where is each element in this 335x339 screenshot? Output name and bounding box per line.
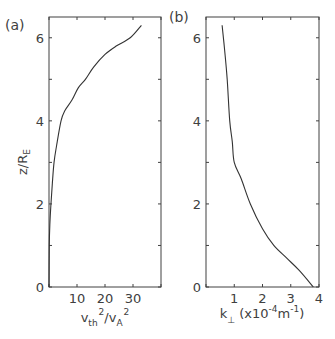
xlabel-b-sup: -4	[269, 304, 278, 314]
xtick-label: 20	[97, 291, 114, 306]
xtick-label: 1	[230, 291, 238, 306]
ytick-label: 6	[36, 31, 44, 46]
panel-b: (b) 02461234 k⊥ (x10-4m-1)	[169, 9, 323, 325]
panel-b-ticks: 02461234	[193, 17, 323, 306]
xlabel-b-sub: ⊥	[227, 315, 235, 325]
ytick-label: 6	[193, 31, 201, 46]
panel-a-curve	[49, 25, 141, 287]
xlabel-a-sup2: 2	[124, 307, 130, 317]
panel-a-ylabel: z/RE	[15, 149, 32, 175]
panel-a: (a) 0246102030 z/RE vth2/vA2	[5, 17, 161, 328]
figure: (a) 0246102030 z/RE vth2/vA2 (b) 0246123…	[0, 0, 335, 339]
panel-b-frame	[206, 17, 319, 287]
xlabel-b-sup2: -1	[290, 304, 299, 314]
panel-a-xlabel: vth2/vA2	[81, 307, 130, 328]
panel-a-label: (a)	[5, 17, 25, 33]
ytick-label: 4	[193, 114, 201, 129]
xtick-label: 2	[258, 291, 266, 306]
ytick-label: 0	[36, 280, 44, 295]
ytick-label: 0	[193, 280, 201, 295]
xlabel-a-sub2: A	[116, 318, 123, 328]
panel-b-curve	[222, 25, 313, 287]
xtick-label: 4	[315, 291, 323, 306]
xtick-label: 30	[125, 291, 142, 306]
ytick-label: 2	[193, 197, 201, 212]
xlabel-b-close: )	[299, 306, 304, 321]
ylabel-sub: E	[22, 149, 32, 155]
panel-b-xlabel: k⊥ (x10-4m-1)	[220, 304, 305, 325]
xlabel-b-unit: m	[278, 306, 291, 321]
xlabel-a-sub: th	[88, 318, 97, 328]
panel-b-label: (b)	[169, 9, 189, 25]
xlabel-b-rest: (x10	[235, 306, 268, 321]
panel-a-frame	[49, 17, 161, 287]
xtick-label: 10	[69, 291, 86, 306]
ylabel-base: z/R	[15, 155, 30, 175]
ytick-label: 4	[36, 114, 44, 129]
ytick-label: 2	[36, 197, 44, 212]
